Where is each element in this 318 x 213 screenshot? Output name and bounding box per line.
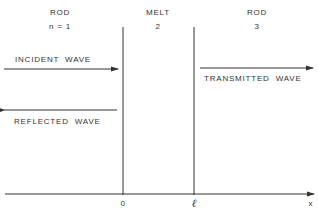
region-1-index: n = 1 xyxy=(49,22,71,31)
incident-wave-label: INCIDENT WAVE xyxy=(15,55,91,64)
x-axis-label: x xyxy=(309,199,314,208)
region-2-name: MELT xyxy=(146,8,170,17)
region-1-name: ROD xyxy=(50,8,70,17)
region-3-index: 3 xyxy=(254,22,259,31)
origin-label: 0 xyxy=(120,199,125,208)
wave-interface-diagram: ROD n = 1 MELT 2 ROD 3 INCIDENT WAVE REF… xyxy=(0,0,318,213)
transmitted-wave-label: TRANSMITTED WAVE xyxy=(204,74,302,83)
region-3-name: ROD xyxy=(247,8,267,17)
boundary-label: ℓ xyxy=(192,197,197,209)
reflected-wave-label: REFLECTED WAVE xyxy=(14,117,101,126)
region-2-index: 2 xyxy=(155,22,160,31)
